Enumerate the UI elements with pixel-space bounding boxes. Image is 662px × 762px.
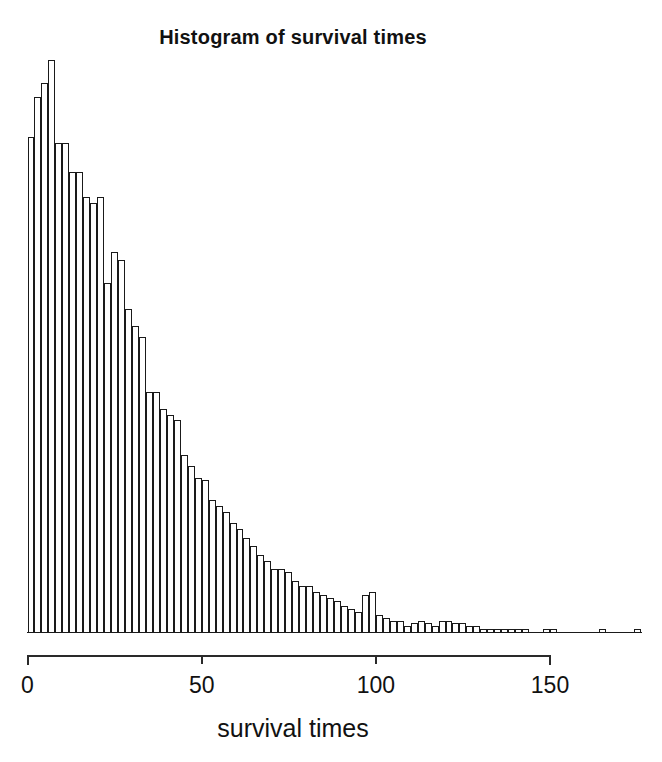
histogram-bar bbox=[153, 392, 160, 632]
histogram-bar bbox=[383, 618, 390, 632]
x-tick-label: 50 bbox=[189, 672, 215, 699]
histogram-bar bbox=[320, 595, 327, 632]
histogram-bar bbox=[97, 197, 104, 632]
baseline-axis bbox=[27, 632, 642, 633]
histogram-bar bbox=[104, 283, 111, 632]
histogram-bar bbox=[250, 546, 257, 632]
x-tick-100 bbox=[375, 655, 377, 664]
histogram-bar bbox=[292, 581, 299, 632]
histogram-bar bbox=[167, 415, 174, 632]
histogram-bar bbox=[459, 623, 466, 632]
histogram-bar bbox=[230, 523, 237, 632]
histogram-bar bbox=[83, 197, 90, 632]
histogram-bar bbox=[313, 592, 320, 632]
histogram-bar bbox=[257, 555, 264, 632]
histogram-bar bbox=[446, 621, 453, 632]
x-tick-label: 0 bbox=[21, 672, 34, 699]
histogram-bar bbox=[34, 97, 41, 632]
histogram-bar bbox=[452, 623, 459, 632]
histogram-bar bbox=[411, 623, 418, 632]
x-tick-50 bbox=[201, 655, 203, 664]
histogram-bar bbox=[243, 538, 250, 632]
histogram-bar bbox=[397, 621, 404, 632]
histogram-bar bbox=[111, 252, 118, 632]
x-axis-label: survival times bbox=[0, 714, 624, 743]
plot-area bbox=[0, 0, 662, 645]
histogram-bar bbox=[28, 137, 35, 632]
histogram-bar bbox=[237, 529, 244, 632]
histogram-bar bbox=[348, 609, 355, 632]
histogram-bar bbox=[62, 143, 69, 632]
x-axis-line bbox=[28, 655, 551, 657]
histogram-bar bbox=[425, 623, 432, 632]
histogram-bar bbox=[55, 143, 62, 632]
histogram-bar bbox=[41, 83, 48, 632]
histogram-bar bbox=[69, 172, 76, 632]
histogram-bar bbox=[376, 615, 383, 632]
histogram-bar bbox=[118, 260, 125, 632]
histogram-bar bbox=[264, 561, 271, 633]
histogram-bar bbox=[48, 60, 55, 632]
histogram-bar bbox=[76, 172, 83, 632]
histogram-bar bbox=[188, 466, 195, 632]
histogram-bar bbox=[139, 337, 146, 632]
histogram-bar bbox=[362, 595, 369, 632]
histogram-bar bbox=[174, 420, 181, 632]
histogram-figure: Histogram of survival times 050100150 su… bbox=[0, 0, 662, 762]
histogram-bar bbox=[341, 606, 348, 632]
histogram-bar bbox=[195, 478, 202, 632]
histogram-bar bbox=[90, 203, 97, 632]
histogram-bar bbox=[439, 621, 446, 632]
histogram-bar bbox=[334, 601, 341, 632]
histogram-bar bbox=[146, 392, 153, 632]
histogram-bar bbox=[418, 621, 425, 632]
histogram-bar bbox=[327, 598, 334, 632]
bars-container bbox=[0, 0, 662, 645]
x-axis: 050100150 bbox=[0, 655, 662, 715]
histogram-bar bbox=[285, 572, 292, 632]
histogram-bar bbox=[181, 455, 188, 632]
histogram-bar bbox=[355, 612, 362, 632]
histogram-bar bbox=[306, 586, 313, 632]
x-tick-label: 100 bbox=[357, 672, 395, 699]
histogram-bar bbox=[216, 506, 223, 632]
histogram-bar bbox=[160, 409, 167, 632]
histogram-bar bbox=[209, 500, 216, 632]
histogram-bar bbox=[125, 309, 132, 632]
histogram-bar bbox=[202, 480, 209, 632]
x-tick-label: 150 bbox=[531, 672, 569, 699]
histogram-bar bbox=[278, 569, 285, 632]
x-tick-0 bbox=[27, 655, 29, 665]
histogram-bar bbox=[299, 586, 306, 632]
histogram-bar bbox=[132, 326, 139, 632]
histogram-bar bbox=[223, 512, 230, 632]
histogram-bar bbox=[390, 621, 397, 632]
histogram-bar bbox=[369, 592, 376, 632]
x-tick-150 bbox=[549, 655, 551, 665]
histogram-bar bbox=[271, 569, 278, 632]
